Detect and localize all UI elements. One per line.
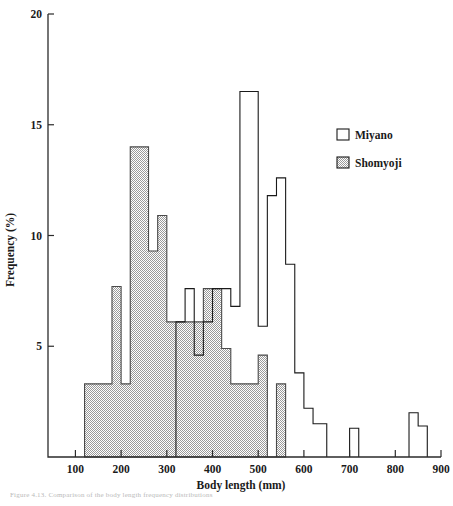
legend-swatch-miyano: [337, 129, 349, 140]
y-axis-label: Frequency (%): [4, 213, 17, 287]
legend-label-shomyoji: Shomyoji: [355, 157, 402, 170]
x-tick-label: 300: [158, 463, 176, 475]
figure-histogram: 100200300400500600700800900 5101520 Body…: [0, 0, 453, 506]
y-tick-label: 10: [31, 230, 43, 242]
x-tick-label: 600: [295, 463, 313, 475]
x-tick-label: 200: [112, 463, 130, 475]
figure-caption: Figure 4.13. Comparison of the body leng…: [10, 491, 440, 499]
x-tick-label: 400: [204, 463, 222, 475]
histogram-chart: 100200300400500600700800900 5101520 Body…: [0, 0, 453, 506]
legend-label-miyano: Miyano: [355, 129, 393, 142]
x-tick-label: 800: [387, 463, 405, 475]
x-tick-label: 900: [432, 463, 450, 475]
x-tick-label: 100: [67, 463, 85, 475]
x-tick-label: 700: [341, 463, 359, 475]
y-tick-label: 5: [36, 340, 42, 352]
y-tick-label: 20: [31, 8, 43, 20]
legend-swatch-shomyoji: [337, 157, 349, 168]
y-tick-label: 15: [31, 119, 43, 131]
x-tick-label: 500: [250, 463, 268, 475]
